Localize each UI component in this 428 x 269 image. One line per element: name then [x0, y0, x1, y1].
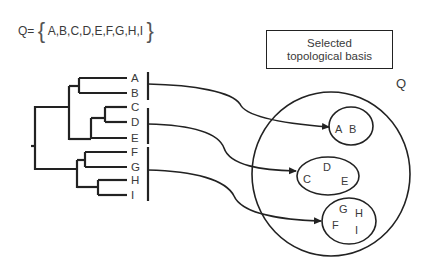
- leaf-label-b: B: [131, 87, 139, 99]
- leaf-label-c: C: [131, 101, 139, 113]
- arrow-cde: [148, 124, 296, 171]
- phylogenetic-tree: [31, 78, 127, 195]
- diagram-canvas: A B C D E F G H I Q A B C D E F G I: [0, 0, 428, 269]
- subset-label-h: I: [355, 224, 358, 236]
- subset-label-c: C: [303, 173, 311, 185]
- subset-label-b: B: [349, 123, 356, 135]
- leaf-label-a: A: [131, 72, 139, 84]
- subset-fghi-circle: [322, 198, 376, 244]
- subset-label-i: H: [355, 207, 363, 219]
- leaf-label-h: H: [131, 174, 139, 186]
- arrow-ab: [148, 84, 329, 127]
- subset-label-f: F: [332, 219, 339, 231]
- leaf-label-f: F: [131, 146, 138, 158]
- arrow-fghi: [148, 170, 321, 221]
- subset-label-d: D: [323, 161, 331, 173]
- leaf-label-i: I: [131, 189, 134, 201]
- leaf-labels: A B C D E F G H I: [131, 72, 140, 201]
- space-q-label: Q: [396, 76, 406, 91]
- leaf-label-g: G: [131, 161, 140, 173]
- subset-label-e: E: [341, 175, 348, 187]
- subset-label-g: G: [339, 203, 348, 215]
- subset-fghi: F G I H: [322, 198, 376, 244]
- leaf-label-e: E: [131, 132, 139, 144]
- subset-label-a: A: [335, 123, 343, 135]
- subset-ab: A B: [329, 107, 373, 145]
- leaf-label-d: D: [131, 116, 139, 128]
- mapping-arrows: [148, 84, 329, 221]
- subset-cde: C D E: [297, 157, 359, 195]
